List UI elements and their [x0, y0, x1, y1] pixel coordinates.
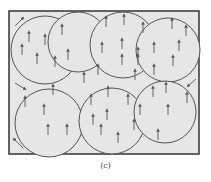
figure-caption: (c): [0, 161, 211, 170]
magnetic-domains-diagram: [0, 0, 211, 160]
domain-circle: [134, 81, 196, 143]
domain-circle: [136, 18, 200, 82]
